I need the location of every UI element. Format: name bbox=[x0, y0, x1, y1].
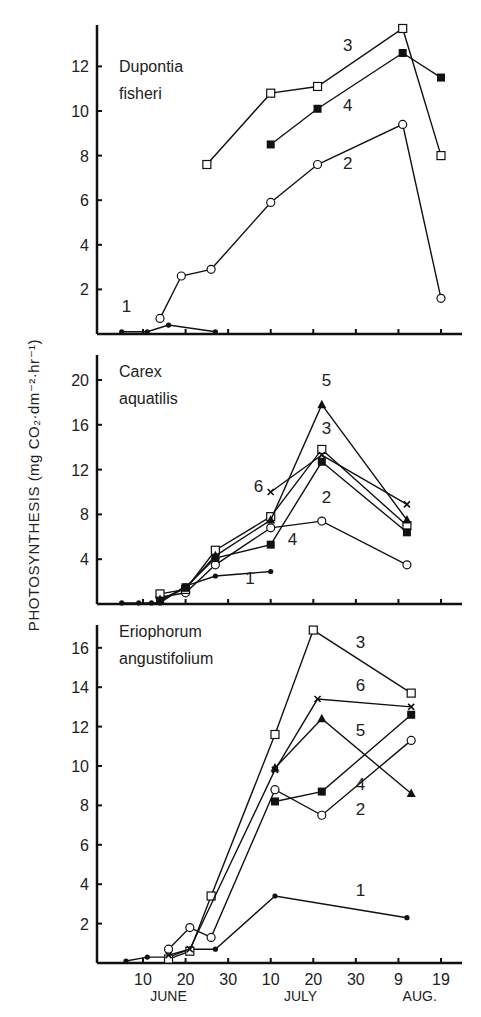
svg-text:14: 14 bbox=[71, 679, 89, 696]
y-axis-label: PHOTOSYNTHESIS (mg CO₂·dm⁻²·hr⁻¹) bbox=[25, 295, 55, 675]
svg-text:2: 2 bbox=[80, 281, 89, 298]
svg-text:20: 20 bbox=[304, 971, 322, 988]
svg-text:9: 9 bbox=[394, 971, 403, 988]
svg-text:2: 2 bbox=[80, 916, 89, 933]
svg-text:8: 8 bbox=[80, 148, 89, 165]
svg-text:5: 5 bbox=[322, 371, 331, 390]
svg-text:6: 6 bbox=[254, 477, 263, 496]
svg-text:fisheri: fisheri bbox=[119, 85, 162, 102]
svg-text:4: 4 bbox=[80, 876, 89, 893]
svg-text:10: 10 bbox=[71, 758, 89, 775]
svg-text:angustifolium: angustifolium bbox=[119, 650, 213, 667]
panel-3: 246810121416Eriophorumangustifolium12345… bbox=[71, 623, 462, 1004]
svg-text:6: 6 bbox=[80, 192, 89, 209]
svg-text:4: 4 bbox=[288, 530, 297, 549]
svg-text:20: 20 bbox=[71, 372, 89, 389]
svg-text:10: 10 bbox=[134, 971, 152, 988]
svg-text:12: 12 bbox=[71, 58, 89, 75]
svg-text:2: 2 bbox=[356, 800, 365, 819]
svg-text:12: 12 bbox=[71, 719, 89, 736]
photosynthesis-figure: 24681012Dupontiafisheri123448121620Carex… bbox=[0, 0, 481, 1017]
panel-1: 24681012Dupontiafisheri1234 bbox=[71, 24, 462, 334]
svg-text:4: 4 bbox=[356, 775, 365, 794]
svg-text:5: 5 bbox=[356, 721, 365, 740]
svg-text:Eriophorum: Eriophorum bbox=[119, 623, 202, 640]
svg-text:8: 8 bbox=[80, 797, 89, 814]
svg-text:1: 1 bbox=[356, 881, 365, 900]
svg-text:2: 2 bbox=[322, 488, 331, 507]
svg-text:1: 1 bbox=[122, 297, 131, 316]
svg-text:JULY: JULY bbox=[284, 988, 318, 1004]
svg-text:JUNE: JUNE bbox=[150, 988, 187, 1004]
svg-text:19: 19 bbox=[432, 971, 450, 988]
svg-text:3: 3 bbox=[322, 419, 331, 438]
svg-text:20: 20 bbox=[177, 971, 195, 988]
svg-text:6: 6 bbox=[356, 676, 365, 695]
svg-text:16: 16 bbox=[71, 640, 89, 657]
svg-text:3: 3 bbox=[356, 633, 365, 652]
svg-text:Carex: Carex bbox=[119, 363, 162, 380]
svg-text:2: 2 bbox=[343, 154, 352, 173]
svg-text:30: 30 bbox=[219, 971, 237, 988]
svg-text:1: 1 bbox=[245, 569, 254, 588]
svg-text:10: 10 bbox=[71, 103, 89, 120]
svg-text:AUG.: AUG. bbox=[403, 988, 437, 1004]
panel-2: 48121620Carexaquatilis123456 bbox=[71, 355, 462, 605]
svg-text:12: 12 bbox=[71, 462, 89, 479]
svg-text:aquatilis: aquatilis bbox=[119, 390, 178, 407]
svg-text:Dupontia: Dupontia bbox=[119, 58, 183, 75]
svg-text:16: 16 bbox=[71, 417, 89, 434]
svg-text:10: 10 bbox=[262, 971, 280, 988]
svg-text:6: 6 bbox=[80, 837, 89, 854]
svg-text:4: 4 bbox=[343, 96, 352, 115]
svg-text:3: 3 bbox=[343, 36, 352, 55]
svg-text:4: 4 bbox=[80, 237, 89, 254]
svg-text:8: 8 bbox=[80, 506, 89, 523]
svg-text:30: 30 bbox=[347, 971, 365, 988]
svg-text:4: 4 bbox=[80, 551, 89, 568]
